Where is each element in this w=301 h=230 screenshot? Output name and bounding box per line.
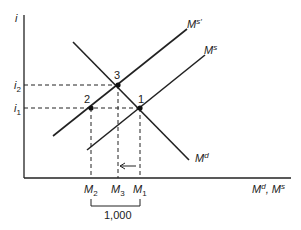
ms-prime-curve: [53, 29, 187, 136]
md-curve: [73, 42, 189, 160]
bracket: [91, 199, 140, 206]
ms-label: Ms: [204, 43, 217, 56]
point-3-label: 3: [114, 69, 120, 81]
y-axis-label: i: [15, 12, 18, 24]
y-tick-i1: i1: [14, 102, 21, 117]
md-label: Md: [195, 151, 209, 164]
point-3: [115, 82, 120, 87]
x-tick-m2: M2: [84, 183, 98, 198]
point-2: [88, 105, 93, 110]
money-market-diagram: 3 2 1 1,000 i i2 i1 M2 M3 M1 Md, Ms Ms′ …: [0, 0, 301, 230]
point-1-label: 1: [138, 93, 144, 105]
point-1: [137, 105, 142, 110]
y-tick-i2: i2: [14, 79, 21, 94]
point-2-label: 2: [84, 93, 90, 105]
ms-prime-label: Ms′: [187, 17, 202, 30]
bracket-label: 1,000: [104, 209, 132, 221]
ms-curve: [87, 55, 205, 150]
x-axis-label: Md, Ms: [252, 182, 285, 195]
x-tick-m1: M1: [133, 183, 147, 198]
diagram-canvas: 3 2 1 1,000 i i2 i1 M2 M3 M1 Md, Ms Ms′ …: [0, 0, 301, 230]
x-tick-m3: M3: [111, 183, 125, 198]
